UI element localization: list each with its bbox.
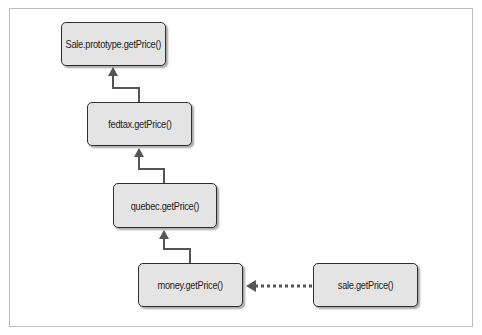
node-sale-getprice: sale.getPrice() xyxy=(313,263,418,307)
node-label: quebec.getPrice() xyxy=(131,200,199,212)
node-quebec-getprice: quebec.getPrice() xyxy=(113,183,217,228)
node-label: money.getPrice() xyxy=(158,279,223,291)
node-fedtax-getprice: fedtax.getPrice() xyxy=(87,102,192,146)
node-money-getprice: money.getPrice() xyxy=(138,263,243,307)
node-sale-prototype-getprice: Sale.prototype.getPrice() xyxy=(61,22,166,66)
node-label: sale.getPrice() xyxy=(338,279,394,291)
node-label: fedtax.getPrice() xyxy=(108,118,171,130)
node-label: Sale.prototype.getPrice() xyxy=(66,38,162,50)
